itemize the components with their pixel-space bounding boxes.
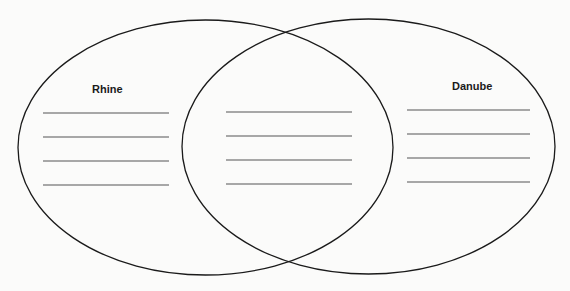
middle-answer-lines[interactable]: [226, 112, 352, 184]
venn-diagram: Rhine Danube: [0, 0, 570, 291]
right-circle-label: Danube: [452, 80, 492, 92]
right-answer-lines[interactable]: [407, 110, 530, 182]
left-circle-label: Rhine: [92, 83, 123, 95]
left-circle: [18, 20, 393, 275]
right-circle: [182, 19, 555, 274]
left-answer-lines[interactable]: [43, 113, 169, 185]
